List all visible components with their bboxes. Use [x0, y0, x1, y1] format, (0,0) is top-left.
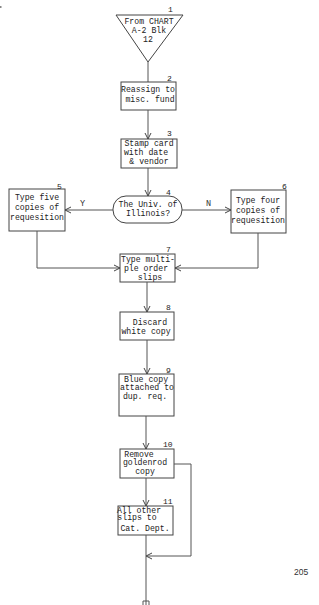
- node-6-line-3: requesition: [231, 216, 285, 225]
- node-7-number: 7: [166, 245, 171, 254]
- node-1-number: 1: [168, 5, 173, 14]
- edge-6-7: [175, 233, 258, 268]
- node-3-line-2: with date: [124, 148, 168, 157]
- node-10-number: 10: [163, 440, 173, 449]
- node-3-process: 3 Stamp card with date & vendor: [121, 129, 177, 168]
- node-9-number: 9: [166, 366, 171, 375]
- node-7-process: 7 Type multi- ple order slips: [120, 245, 175, 282]
- node-5-line-1: Type five: [15, 193, 59, 202]
- node-5-line-3: requesition: [10, 213, 64, 222]
- node-1-line-3: 12: [143, 35, 153, 44]
- offpage-connector-icon: [143, 601, 149, 605]
- node-6-number: 6: [282, 182, 287, 191]
- node-6-process: 6 Type four copies of requesition: [231, 182, 287, 233]
- node-4-line-2: Illinois?: [126, 209, 170, 218]
- edge-5-7: [37, 231, 120, 268]
- node-11-line-2: slips to: [117, 513, 156, 522]
- node-10-line-3: copy: [135, 467, 155, 476]
- node-9-line-3: dup. req.: [123, 392, 167, 401]
- node-1-entry-triangle: 1 From CHART A-2 Blk 12: [116, 5, 183, 62]
- node-9-process: 9 Blue copy attached to dup. req.: [119, 366, 174, 416]
- scan-mark: [0, 6, 2, 8]
- node-10-process: 10 Remove goldenrod copy: [120, 440, 174, 478]
- node-7-line-1: Type multi-: [121, 255, 175, 264]
- node-3-line-1: Stamp card: [124, 139, 173, 148]
- node-7-line-3: slips: [138, 273, 163, 282]
- node-11-process: 11 All other slips to Cat. Dept.: [117, 497, 173, 535]
- node-3-number: 3: [167, 129, 172, 138]
- node-4-line-1: The Univ. of: [119, 200, 178, 209]
- node-10-line-2: goldenrod: [123, 458, 167, 467]
- node-9-line-2: attached to: [120, 383, 174, 392]
- node-5-number: 5: [57, 182, 62, 191]
- yes-label: Y: [80, 199, 85, 209]
- node-2-line-2: misc. fund: [125, 95, 174, 104]
- node-5-line-2: copies of: [15, 203, 59, 212]
- node-6-line-1: Type four: [236, 196, 280, 205]
- node-11-number: 11: [163, 497, 173, 506]
- node-5-process: 5 Type five copies of requesition: [9, 182, 65, 231]
- flowchart-canvas: 1 From CHART A-2 Blk 12 2 Reassign to mi…: [0, 0, 319, 605]
- node-6-line-2: copies of: [236, 206, 280, 215]
- node-1-line-1: From CHART: [124, 17, 173, 26]
- node-2-number: 2: [167, 74, 172, 83]
- node-1-line-2: A-2 Blk: [132, 26, 166, 35]
- node-11-line-3: Cat. Dept.: [120, 524, 169, 533]
- node-3-line-3: & vendor: [129, 157, 168, 166]
- node-2-line-1: Reassign to: [121, 85, 175, 94]
- node-4-number: 4: [166, 188, 171, 197]
- node-8-line-1: Discard: [133, 318, 167, 327]
- node-7-line-2: ple order: [124, 264, 168, 273]
- page-number: 205: [294, 567, 308, 577]
- no-label: N: [206, 199, 211, 209]
- node-8-number: 8: [166, 303, 171, 312]
- node-8-line-2: white copy: [121, 327, 170, 336]
